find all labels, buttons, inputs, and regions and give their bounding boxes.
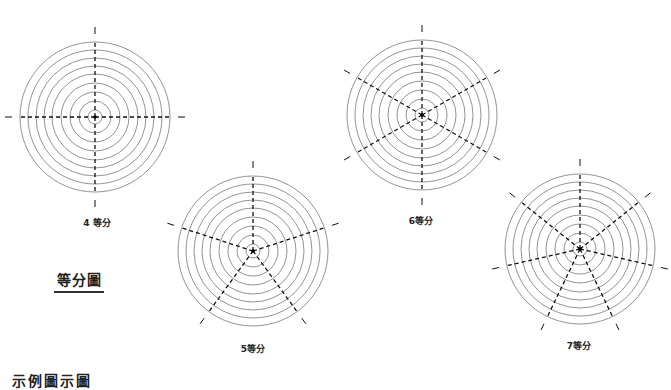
center-point-icon (93, 115, 97, 119)
axis-tick (344, 70, 350, 74)
center-point-icon (420, 113, 424, 117)
center-point-icon (578, 247, 582, 251)
division-spoke (422, 115, 487, 153)
page-title: 等分圖 (57, 269, 102, 289)
division-diagram-4 (5, 27, 185, 207)
axis-tick (510, 193, 515, 197)
axis-tick (167, 223, 174, 225)
diagram-label-6: 6等分 (409, 214, 433, 227)
cutoff-caption: 示例圖示圖 (12, 370, 92, 390)
axis-tick (494, 70, 500, 74)
division-diagram-6 (344, 25, 500, 205)
axis-tick (302, 318, 306, 324)
diagram-label-4: 4 等分 (83, 216, 110, 229)
division-diagram-5 (167, 161, 338, 326)
center-point-icon (251, 249, 255, 253)
division-spoke (580, 249, 653, 266)
axis-tick (616, 324, 619, 330)
axis-tick (492, 267, 499, 269)
axis-tick (541, 324, 544, 330)
axis-tick (645, 193, 650, 197)
division-spoke (507, 249, 580, 266)
axis-tick (200, 318, 204, 324)
axis-tick (494, 157, 500, 161)
division-spoke (357, 115, 422, 153)
division-spoke (357, 78, 422, 116)
axis-tick (332, 223, 339, 225)
division-spoke (253, 251, 297, 312)
division-diagram-7 (492, 159, 667, 330)
diagram-label-5: 5等分 (241, 342, 265, 355)
axis-tick (344, 157, 350, 161)
title-underline (54, 291, 104, 293)
diagram-label-7: 7等分 (567, 339, 591, 352)
axis-tick (661, 267, 668, 269)
division-spoke (422, 78, 487, 116)
division-spoke (209, 251, 253, 312)
